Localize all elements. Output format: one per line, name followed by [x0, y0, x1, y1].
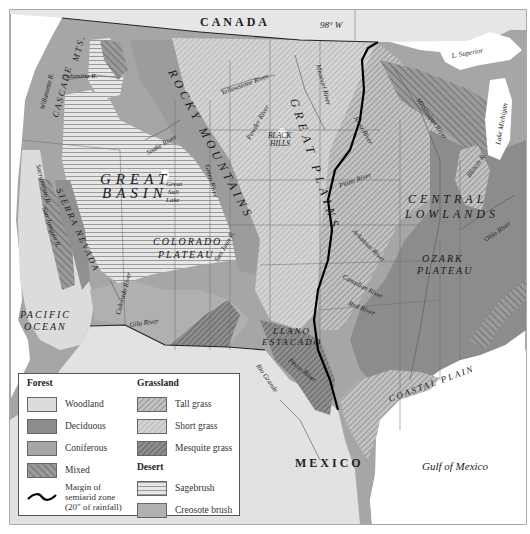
label-ozark-1: OZARK: [422, 253, 464, 264]
legend-grassland-desert-column: Grassland Tall grass Short grass Mesquit…: [137, 378, 232, 521]
legend-item-coniferous: Coniferous: [27, 437, 122, 459]
label-ozark-2: PLATEAU: [416, 265, 473, 276]
label-central-lowlands-1: CENTRAL: [408, 192, 487, 206]
legend-item-deciduous: Deciduous: [27, 415, 122, 437]
legend-item-semiarid-margin: Margin of semiarid zone (20" of rainfall…: [27, 482, 122, 512]
label-gulf-of-mexico: Gulf of Mexico: [422, 460, 488, 472]
swatch-sagebrush: [137, 481, 167, 496]
label-black-hills-2: HILLS: [269, 139, 290, 148]
legend-label: Tall grass: [175, 399, 212, 409]
label-meridian: 98° W: [320, 20, 344, 30]
wavy-line-icon: [27, 490, 57, 504]
legend-item-mixed: Mixed: [27, 459, 122, 481]
label-canada: CANADA: [200, 15, 270, 29]
legend-forest-column: Forest Woodland Deciduous Coniferous Mix…: [27, 378, 122, 512]
label-llano-2: ESTACADO: [261, 337, 322, 347]
legend-item-tall-grass: Tall grass: [137, 393, 232, 415]
label-pacific-2: OCEAN: [24, 321, 67, 332]
label-colorado-plateau-2: PLATEAU: [157, 249, 214, 260]
legend-label: Sagebrush: [175, 483, 215, 493]
label-columbia-river: Columbia R.: [62, 72, 98, 80]
legend-item-short-grass: Short grass: [137, 415, 232, 437]
label-pacific-1: PACIFIC: [19, 309, 71, 320]
swatch-coniferous: [27, 441, 57, 456]
legend-item-sagebrush: Sagebrush: [137, 477, 232, 499]
legend-label: Deciduous: [65, 421, 106, 431]
swatch-mesquite-grass: [137, 441, 167, 456]
swatch-short-grass: [137, 419, 167, 434]
label-llano-1: LLANO: [272, 326, 311, 336]
swatch-deciduous: [27, 419, 57, 434]
legend-item-mesquite-grass: Mesquite grass: [137, 437, 232, 459]
label-great-salt-lake-3: Lake: [165, 196, 180, 204]
legend-label: Mixed: [65, 465, 90, 475]
label-central-lowlands-2: LOWLANDS: [404, 207, 499, 221]
swatch-tall-grass: [137, 397, 167, 412]
legend-forest-heading: Forest: [27, 378, 122, 390]
legend-label: Mesquite grass: [175, 443, 232, 453]
legend-margin-line1: Margin of: [65, 482, 122, 492]
legend-desert-heading: Desert: [137, 462, 232, 474]
label-great-salt-lake-1: Great: [166, 180, 183, 188]
legend-margin-text: Margin of semiarid zone (20" of rainfall…: [65, 482, 122, 512]
legend-label: Woodland: [65, 399, 104, 409]
swatch-woodland: [27, 397, 57, 412]
legend-label: Short grass: [175, 421, 218, 431]
label-great-salt-lake-2: Salt: [168, 188, 180, 196]
legend-grassland-heading: Grassland: [137, 378, 232, 390]
legend-label: Creosote brush: [175, 505, 232, 515]
legend-margin-line2: semiarid zone: [65, 492, 122, 502]
label-colorado-plateau-1: COLORADO: [153, 236, 222, 247]
swatch-mixed: [27, 463, 57, 478]
swatch-creosote-brush: [137, 503, 167, 518]
map-legend: Forest Woodland Deciduous Coniferous Mix…: [18, 373, 240, 516]
legend-item-creosote-brush: Creosote brush: [137, 499, 232, 521]
label-mexico: MEXICO: [295, 456, 364, 470]
legend-label: Coniferous: [65, 443, 107, 453]
legend-margin-line3: (20" of rainfall): [65, 502, 122, 512]
legend-item-woodland: Woodland: [27, 393, 122, 415]
label-great-basin-2: BASIN: [102, 185, 168, 201]
